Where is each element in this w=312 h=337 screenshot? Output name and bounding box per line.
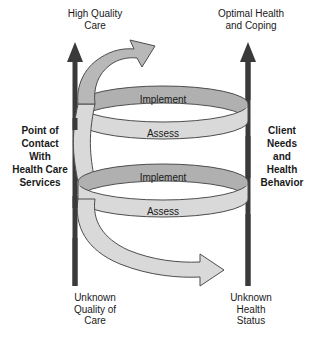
loop-1-implement-label: Implement <box>140 94 187 105</box>
caption-high-quality-care: High Quality Care <box>35 8 155 31</box>
caption-optimal-health-and-coping: Optimal Health and Coping <box>192 8 310 31</box>
loop-1-assess-label: Assess <box>147 128 179 139</box>
caption-client-needs: Client Needs and Health Behavior <box>252 124 312 189</box>
spiral-diagram: Implement Assess Implement Assess High Q… <box>0 0 312 337</box>
caption-point-of-contact: Point of Contact With Health Care Servic… <box>2 124 78 189</box>
loop-2-assess-label: Assess <box>147 206 179 217</box>
loop-2-implement-label: Implement <box>140 172 187 183</box>
caption-unknown-quality-of-care: Unknown Quality of Care <box>35 292 155 327</box>
caption-unknown-health-status: Unknown Health Status <box>192 292 310 327</box>
